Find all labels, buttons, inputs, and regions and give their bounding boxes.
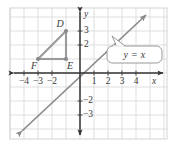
vertex-d-dot [64, 29, 68, 33]
coordinate-plane-svg [0, 0, 177, 148]
vertex-label-d: D [56, 19, 63, 29]
y-tick-label--3: −3 [83, 110, 93, 120]
x-tick-label-4: 4 [134, 77, 139, 87]
y-tick-label-2: 2 [84, 40, 89, 50]
callout-label: y = x [123, 50, 145, 60]
x-tick-label-3: 3 [120, 77, 125, 87]
vertex-label-f: F [31, 61, 37, 71]
y-tick-label--2: −2 [83, 96, 93, 106]
y-axis-label: y [84, 10, 88, 20]
x-tick-label-1: 1 [92, 77, 97, 87]
x-tick-label--2: −2 [47, 77, 57, 87]
x-tick-label--3: −3 [33, 77, 43, 87]
x-tick-label--4: −4 [19, 77, 29, 87]
graph-figure: −4 −3 −2 1 2 3 4 3 2 −2 −3 x y D E F y =… [0, 0, 177, 148]
y-tick-label-3: 3 [84, 26, 89, 36]
vertex-label-e: E [67, 61, 73, 71]
x-tick-label-2: 2 [106, 77, 111, 87]
x-axis-label: x [152, 77, 156, 87]
